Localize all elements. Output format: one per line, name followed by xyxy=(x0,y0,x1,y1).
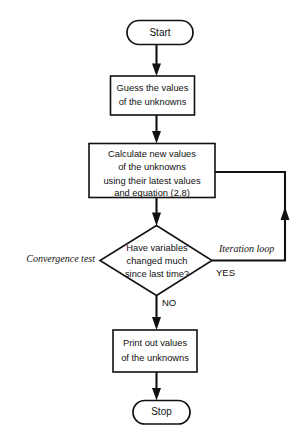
calculate-line-4: and equation (2.8) xyxy=(114,188,189,198)
flowchart-svg: Start Guess the values of the unknowns C… xyxy=(0,0,303,440)
calculate-line-3: using their latest values xyxy=(103,176,201,186)
arrowhead-down-icon xyxy=(152,317,161,330)
convergence-test-annotation: Convergence test xyxy=(26,253,95,264)
connector-print-to-stop xyxy=(152,372,161,401)
guess-line-1: Guess the values xyxy=(117,83,189,93)
decision-line-2: changed much xyxy=(127,256,188,266)
decision-line-3: since last time? xyxy=(125,269,189,279)
calculate-line-1: Calculate new values xyxy=(108,149,196,159)
iteration-loop-annotation: Iteration loop xyxy=(218,243,274,254)
flowchart-canvas: Start Guess the values of the unknowns C… xyxy=(0,0,303,440)
arrowhead-down-icon xyxy=(152,213,161,227)
stop-label: Stop xyxy=(151,406,172,417)
connector-start-to-guess xyxy=(152,45,161,77)
arrowhead-down-icon xyxy=(152,64,161,77)
connector-guess-to-calculate xyxy=(152,115,161,144)
node-guess[interactable]: Guess the values of the unknowns xyxy=(111,76,195,115)
print-box-shape xyxy=(113,330,197,372)
guess-line-2: of the unknowns xyxy=(119,97,187,107)
node-stop[interactable]: Stop xyxy=(133,401,190,425)
decision-line-1: Have variables xyxy=(126,243,188,253)
arrowhead-down-icon xyxy=(152,388,161,401)
start-label: Start xyxy=(149,27,170,38)
print-line-1: Print out values xyxy=(123,338,187,348)
calculate-line-2: of the unknowns xyxy=(118,162,186,172)
print-line-2: of the unknowns xyxy=(121,353,189,363)
connector-calculate-to-decision xyxy=(152,198,161,227)
node-print[interactable]: Print out values of the unknowns xyxy=(113,330,197,372)
guess-box-shape xyxy=(111,76,195,115)
branch-label-no: NO xyxy=(162,297,176,308)
connector-decision-to-print xyxy=(152,296,161,331)
node-decision[interactable]: Have variables changed much since last t… xyxy=(100,226,212,296)
node-calculate[interactable]: Calculate new values of the unknowns usi… xyxy=(89,144,215,199)
branch-label-yes: YES xyxy=(216,267,235,278)
node-start[interactable]: Start xyxy=(127,21,193,45)
arrowhead-up-icon xyxy=(281,207,290,220)
arrowhead-down-icon xyxy=(152,131,161,144)
